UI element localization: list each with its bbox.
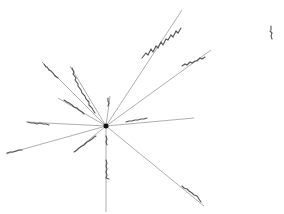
spoke-3 xyxy=(70,66,106,126)
spoke-12 xyxy=(106,126,204,206)
spoke-1 xyxy=(106,10,182,126)
hub xyxy=(104,124,109,129)
label-scribble-9 xyxy=(74,136,96,152)
radial-diagram xyxy=(0,0,284,214)
handwritten-labels xyxy=(7,26,272,202)
spokes xyxy=(6,10,211,212)
